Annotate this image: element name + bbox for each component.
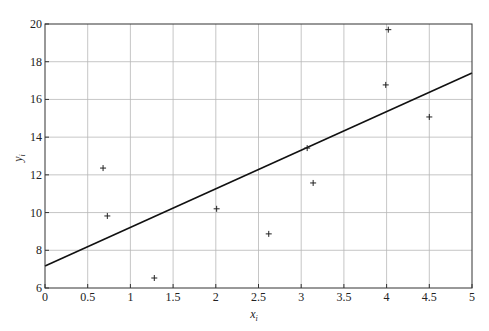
x-tick-label: 3 <box>298 290 304 304</box>
y-tick-label: 14 <box>30 130 42 144</box>
y-tick-label: 18 <box>30 55 42 69</box>
x-tick-label: 0 <box>42 290 48 304</box>
x-tick-label: 1.5 <box>166 290 181 304</box>
plus-marker-icon <box>426 114 432 120</box>
x-tick-label: 3.5 <box>336 290 351 304</box>
x-tick-label: 2 <box>213 290 219 304</box>
y-tick-label: 16 <box>30 92 42 106</box>
x-tick-label: 0.5 <box>80 290 95 304</box>
y-tick-label: 8 <box>36 243 42 257</box>
x-tick-label: 2.5 <box>251 290 266 304</box>
y-tick-label: 6 <box>36 281 42 295</box>
plus-marker-icon <box>310 180 316 186</box>
plus-marker-icon <box>214 206 220 212</box>
x-tick-label: 4 <box>384 290 390 304</box>
chart-canvas: 00.511.522.533.544.55 68101214161820 xi … <box>0 0 489 331</box>
plus-marker-icon <box>383 82 389 88</box>
grid-lines <box>45 24 472 288</box>
y-axis-label: yi <box>11 154 27 163</box>
x-axis-label: xi <box>249 307 258 323</box>
scatter-chart: 00.511.522.533.544.55 68101214161820 xi … <box>0 0 489 331</box>
y-tick-label: 20 <box>30 17 42 31</box>
x-tick-label: 5 <box>469 290 475 304</box>
data-points <box>100 27 432 281</box>
x-tick-label: 1 <box>127 290 133 304</box>
x-tick-label: 4.5 <box>422 290 437 304</box>
plus-marker-icon <box>151 275 157 281</box>
y-tick-label: 12 <box>30 168 42 182</box>
plus-marker-icon <box>104 213 110 219</box>
y-axis-ticks: 68101214161820 <box>30 17 49 295</box>
plus-marker-icon <box>266 231 272 237</box>
y-tick-label: 10 <box>30 206 42 220</box>
x-axis-ticks: 00.511.522.533.544.55 <box>42 284 475 304</box>
plus-marker-icon <box>100 165 106 171</box>
